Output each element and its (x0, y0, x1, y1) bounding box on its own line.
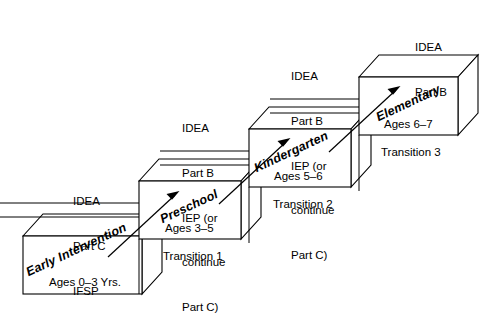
ages-label-preschool: Ages 3–5 (165, 222, 214, 236)
transition-diagram: IDEA Part C IFSP IDEA Part B IEP (or con… (0, 0, 503, 314)
idea-note-elementary: IDEA Part B (415, 10, 447, 130)
idea-note-line: Part B (182, 166, 225, 181)
ages-label-early-intervention: Ages 0–3 Yrs. (49, 276, 121, 290)
ages-label-elementary: Ages 6–7 (384, 118, 433, 132)
idea-note-line: Part C) (182, 300, 225, 314)
idea-note-line: Part C) (291, 248, 334, 263)
transition-label-1: Transition 1 (163, 250, 223, 264)
idea-note-line: IDEA (182, 121, 225, 136)
transition-label-2: Transition 2 (273, 198, 333, 212)
transition-label-3: Transition 3 (381, 146, 441, 160)
ages-label-kindergarten: Ages 5–6 (274, 170, 323, 184)
idea-note-line: IDEA (73, 194, 106, 209)
idea-note-line: Part B (291, 114, 334, 129)
idea-note-line: IDEA (415, 40, 447, 55)
idea-note-line: IDEA (291, 69, 334, 84)
idea-note-kindergarten: IDEA Part B IEP (or continue Part C) (291, 39, 334, 293)
